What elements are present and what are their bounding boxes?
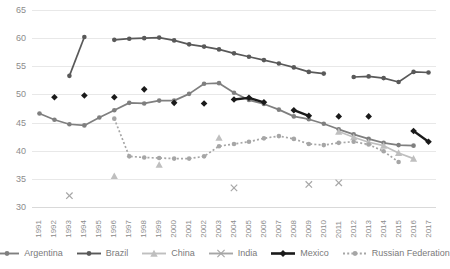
data-point (217, 144, 222, 149)
data-point (365, 113, 372, 120)
data-point (202, 44, 207, 49)
data-point (335, 113, 342, 120)
data-point (426, 70, 431, 75)
legend-label: Brazil (106, 249, 129, 258)
data-point (112, 38, 117, 43)
x-tick-label: 2017 (425, 220, 433, 238)
chart-legend: ArgentinaBrazilChinaIndiaMexicoRussian F… (0, 243, 444, 263)
data-point (307, 70, 312, 75)
data-point (142, 36, 147, 41)
legend-label: India (238, 249, 258, 258)
x-tick-label: 2013 (365, 220, 373, 238)
legend-label: Mexico (300, 249, 329, 258)
data-point (306, 181, 312, 187)
x-tick-label: 2014 (380, 220, 388, 238)
data-point (277, 107, 282, 112)
legend-label: Russian Federation (372, 249, 450, 258)
data-point (52, 117, 57, 122)
data-point (66, 193, 72, 199)
data-point (262, 58, 267, 63)
legend-swatch-icon (208, 248, 234, 259)
data-point (232, 51, 237, 56)
data-point (112, 108, 117, 113)
data-point (142, 155, 147, 160)
x-tick-label: 2007 (275, 220, 283, 238)
legend-item-brazil[interactable]: Brazil (76, 248, 129, 259)
data-point (366, 74, 371, 79)
data-point (381, 76, 386, 81)
data-point (127, 36, 132, 41)
y-tick-label: 55 (0, 62, 26, 71)
data-point (127, 154, 132, 159)
x-tick-label: 2002 (200, 220, 208, 238)
y-tick-label: 30 (0, 203, 26, 212)
data-point (351, 75, 356, 80)
data-point (112, 116, 117, 121)
legend-item-india[interactable]: India (208, 248, 258, 259)
x-tick-label: 1997 (125, 220, 133, 238)
plot-area (32, 10, 436, 207)
x-tick-label: 2000 (170, 220, 178, 238)
x-tick-label: 1999 (155, 220, 163, 238)
data-point (231, 96, 238, 103)
x-tick-label: 2003 (215, 220, 223, 238)
data-point (217, 81, 222, 86)
legend-item-mexico[interactable]: Mexico (270, 248, 329, 259)
data-point (97, 115, 102, 120)
x-axis-tick-labels: 1991199219931994199519961997199819992000… (32, 208, 436, 238)
legend-item-china[interactable]: China (141, 248, 195, 259)
data-point (336, 141, 341, 146)
data-point (232, 142, 237, 147)
series-china (111, 128, 417, 179)
data-point (51, 94, 58, 101)
series-brazil (67, 35, 431, 85)
data-point (215, 134, 222, 141)
x-tick-label: 1992 (50, 220, 58, 238)
y-tick-label: 40 (0, 147, 26, 156)
legend-item-russian-federation[interactable]: Russian Federation (342, 248, 450, 259)
data-point (81, 92, 88, 99)
x-tick-label: 2015 (395, 220, 403, 238)
data-point (67, 122, 72, 127)
x-tick-label: 2008 (290, 220, 298, 238)
y-tick-label: 60 (0, 34, 26, 43)
data-point (336, 180, 342, 186)
series-india (66, 180, 342, 199)
data-point (142, 101, 147, 106)
data-point (67, 74, 72, 79)
data-point (127, 101, 132, 106)
data-point (411, 70, 416, 75)
data-point (202, 154, 207, 159)
data-point (381, 149, 386, 154)
legend-item-argentina[interactable]: Argentina (0, 248, 63, 259)
x-tick-label: 2004 (230, 220, 238, 238)
legend-label: China (171, 249, 195, 258)
data-point (291, 107, 298, 114)
data-point (202, 81, 207, 86)
data-point (157, 98, 162, 103)
x-tick-label: 2010 (320, 220, 328, 238)
data-point (396, 143, 401, 148)
series-layer (32, 10, 436, 207)
data-point (232, 90, 237, 95)
legend-swatch-icon (270, 248, 296, 259)
x-tick-label: 1991 (35, 220, 43, 238)
data-point (321, 71, 326, 76)
x-tick-label: 1995 (95, 220, 103, 238)
data-point (172, 38, 177, 43)
data-point (292, 137, 297, 142)
legend-swatch-icon (76, 248, 102, 259)
legend-swatch-icon (141, 248, 167, 259)
data-point (201, 100, 208, 107)
data-point (187, 42, 192, 47)
x-tick-label: 1993 (65, 220, 73, 238)
data-point (82, 35, 87, 40)
data-point (187, 92, 192, 97)
x-tick-label: 2009 (305, 220, 313, 238)
data-point (111, 94, 118, 101)
data-point (366, 142, 371, 147)
data-point (247, 54, 252, 59)
y-tick-label: 35 (0, 175, 26, 184)
legend-swatch-icon (342, 248, 368, 259)
